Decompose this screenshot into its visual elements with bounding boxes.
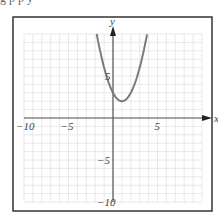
x-tick-label: −10	[16, 120, 35, 132]
graph: −10−555−5−10xy	[0, 0, 218, 223]
y-tick-label: 5	[105, 70, 111, 82]
y-tick-label: −10	[97, 196, 116, 208]
x-tick-label: 5	[155, 120, 161, 132]
y-axis-label: y	[109, 15, 115, 27]
x-tick-label: −5	[61, 120, 74, 132]
y-tick-label: −5	[97, 154, 110, 166]
x-axis-label: x	[213, 112, 218, 124]
